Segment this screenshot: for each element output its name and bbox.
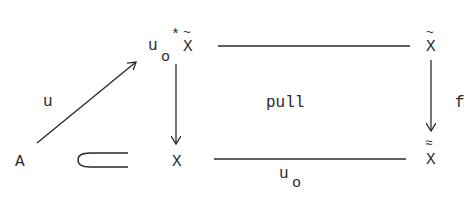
- edge-label-uo-subscript: o: [292, 176, 301, 191]
- node-x: X: [172, 154, 182, 170]
- x-double-tilde-object: X: [426, 152, 436, 168]
- x-tilde-object: X: [426, 39, 436, 55]
- pullback-node-object: X: [183, 39, 193, 55]
- pullback-node-base: u: [148, 38, 158, 54]
- edge-label-f: f: [455, 95, 465, 111]
- pullback-node-star: *: [171, 28, 180, 43]
- pullback-node-subscript: o: [161, 50, 170, 65]
- inclusion-hook-icon: [78, 153, 128, 167]
- center-label-pull: pull: [266, 95, 304, 111]
- node-a: A: [15, 154, 25, 170]
- edge-label-u: u: [43, 94, 53, 110]
- diagram-lines: [0, 0, 475, 210]
- edge-label-uo-base: u: [279, 166, 289, 182]
- x-double-tilde-accent: ≈: [425, 137, 433, 150]
